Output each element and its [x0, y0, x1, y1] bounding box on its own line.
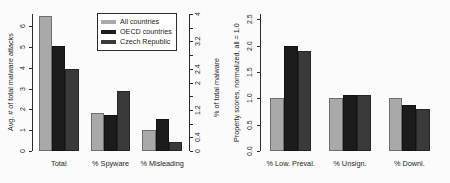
left-chart-category-label: % Misleading — [136, 160, 188, 167]
y-axis-left-primary-line — [32, 14, 33, 151]
left-chart-bar — [156, 119, 169, 151]
y-axis-right-panel-tick — [257, 151, 260, 152]
legend-item: Czech Republic — [101, 37, 172, 47]
y-axis-left-secondary-tick — [190, 151, 193, 152]
y-axis-left-secondary-tick — [190, 96, 193, 97]
y-axis-left-secondary-tick — [190, 41, 193, 42]
legend-swatch-oecd-countries — [101, 30, 116, 34]
left-chart-bar — [65, 69, 78, 151]
y-axis-left-secondary-tick — [190, 55, 193, 56]
legend-label: Czech Republic — [120, 38, 170, 45]
left-chart-bar — [39, 16, 52, 151]
y-axis-left-primary-tick-label: 0 — [19, 142, 28, 160]
y-axis-left-secondary-tick-label: 0.4 — [194, 128, 203, 146]
y-axis-left-secondary-tick — [190, 69, 193, 70]
y-axis-right-panel-tick-label: 0.0 — [246, 142, 255, 160]
y-axis-title-left-secondary: % of total malware — [212, 34, 222, 141]
left-chart-bar — [104, 115, 117, 151]
y-axis-left-secondary-tick — [190, 124, 193, 125]
figure-canvas: 0123456 Avg. # of total malware attacks … — [0, 0, 450, 183]
y-axis-left-primary-tick-label: 3 — [19, 80, 28, 98]
y-axis-left-primary-tick — [29, 26, 32, 27]
y-axis-left-primary-tick — [29, 151, 32, 152]
y-axis-right-panel-line — [260, 14, 261, 151]
y-axis-right-panel-tick-label: 2.5 — [246, 10, 255, 28]
left-chart-bar — [117, 91, 130, 151]
right-chart-bar — [416, 109, 430, 151]
y-axis-left-primary-tick-label: 1 — [19, 121, 28, 139]
y-axis-left-primary-tick — [29, 89, 32, 90]
chart-panel-left: 0123456 Avg. # of total malware attacks … — [0, 0, 225, 183]
left-chart-bar — [91, 113, 104, 151]
left-chart-bar — [142, 130, 155, 151]
y-axis-right-panel-tick-label: 0.5 — [246, 116, 255, 134]
y-axis-right-panel-tick — [257, 125, 260, 126]
y-axis-right-panel-tick-label: 1.0 — [246, 89, 255, 107]
y-axis-left-primary-tick-label: 5 — [19, 38, 28, 56]
y-axis-left-primary-tick — [29, 47, 32, 48]
right-chart-bar — [298, 51, 312, 151]
left-chart-bar — [169, 142, 182, 151]
right-chart-bar — [329, 98, 343, 151]
y-axis-left-secondary-tick — [190, 110, 193, 111]
legend-left: All countries OECD countries Czech Repub… — [97, 13, 177, 51]
y-axis-left-primary-tick — [29, 68, 32, 69]
y-axis-right-panel-tick-label: 2.0 — [246, 37, 255, 55]
left-chart-bar — [52, 46, 65, 151]
y-axis-left-secondary-tick — [190, 14, 193, 15]
y-axis-left-primary-tick — [29, 130, 32, 131]
left-chart-category-label: % Spyware — [85, 160, 137, 167]
y-axis-left-primary-tick-label: 4 — [19, 59, 28, 77]
legend-swatch-all-countries — [101, 20, 116, 24]
y-axis-left-secondary-tick-label: 1.2 — [194, 101, 203, 119]
legend-item: OECD countries — [101, 27, 172, 37]
right-chart-bar — [389, 98, 403, 151]
y-axis-left-secondary-tick-label: 3.2 — [194, 32, 203, 50]
right-chart-bar — [402, 105, 416, 151]
y-axis-left-secondary-tick-label: 2.4 — [194, 60, 203, 78]
y-axis-right-panel-tick — [257, 19, 260, 20]
y-axis-right-panel-tick — [257, 46, 260, 47]
y-axis-left-secondary-tick — [190, 83, 193, 84]
y-axis-left-primary-tick-label: 2 — [19, 100, 28, 118]
left-chart-category-label: Total — [33, 160, 85, 167]
y-axis-left-secondary-tick-label: 4 — [194, 5, 203, 23]
y-axis-left-secondary-tick — [190, 137, 193, 138]
right-chart-bar — [343, 95, 357, 151]
right-chart-bar — [357, 95, 371, 151]
y-axis-right-panel-tick-label: 1.5 — [246, 63, 255, 81]
chart-panel-right: 0.00.51.01.52.02.5 Property scores, norm… — [225, 0, 450, 183]
y-axis-title-left-primary: Avg. # of total malware attacks — [6, 20, 16, 145]
y-axis-left-primary-tick-label: 6 — [19, 17, 28, 35]
right-chart-bar — [270, 98, 284, 151]
y-axis-left-secondary-tick — [190, 28, 193, 29]
right-chart-category-label: % Downl. — [380, 160, 439, 167]
right-chart-bar — [284, 46, 298, 151]
y-axis-right-panel-tick — [257, 72, 260, 73]
legend-item: All countries — [101, 17, 172, 27]
legend-label: OECD countries — [120, 28, 172, 35]
y-axis-title-right-panel: Property scores, normalized, all = 1.0 — [232, 16, 242, 149]
y-axis-left-primary-tick — [29, 109, 32, 110]
right-chart-category-label: % Low. Preval. — [261, 160, 320, 167]
legend-label: All countries — [120, 18, 159, 25]
legend-swatch-czech-republic — [101, 40, 116, 44]
right-chart-category-label: % Unsign. — [320, 160, 379, 167]
y-axis-right-panel-tick — [257, 98, 260, 99]
